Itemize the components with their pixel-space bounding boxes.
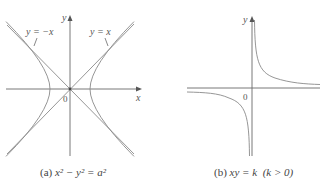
label-y-eq-x: y = x bbox=[89, 26, 111, 37]
figure-a-y-label: y bbox=[61, 12, 67, 23]
figure-a-x-label: x bbox=[135, 92, 141, 103]
figure-a-graph: y x 0 y = −x y = x bbox=[6, 12, 142, 156]
figure-b-y-arrow-icon bbox=[250, 16, 255, 22]
figure-b-caption-condition: (k > 0) bbox=[263, 166, 294, 178]
hyperbola-xy-k-q3-branch bbox=[187, 92, 250, 156]
figure-a-caption-equation: x² − y² = a² bbox=[55, 166, 106, 178]
figure-b-caption: (b) xy = k (k > 0) bbox=[214, 166, 293, 178]
figure-a-origin-label: 0 bbox=[63, 94, 68, 104]
hyperbola-figures: y x 0 y = −x y = x y 0 bbox=[0, 0, 320, 186]
label-y-eq-neg-x: y = −x bbox=[25, 26, 54, 37]
figure-b-caption-prefix: (b) bbox=[214, 166, 227, 178]
figure-b-caption-equation: xy = k bbox=[230, 166, 258, 178]
figure-a-caption: (a) x² − y² = a² bbox=[40, 166, 106, 178]
figure-a-x-arrow-icon bbox=[136, 87, 142, 92]
figure-a-y-arrow-icon bbox=[68, 15, 73, 21]
figure-a-caption-prefix: (a) bbox=[40, 166, 52, 178]
figure-b-graph: y 0 bbox=[187, 14, 320, 156]
figure-b-origin-label: 0 bbox=[243, 92, 248, 102]
figure-b-y-label: y bbox=[242, 14, 248, 25]
hyperbola-xy-k-q1-branch bbox=[255, 20, 320, 85]
